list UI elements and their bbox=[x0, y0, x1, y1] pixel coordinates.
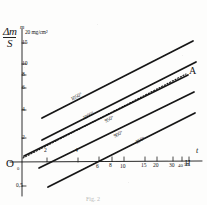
data-line-1050 bbox=[42, 41, 193, 118]
origin-label: O bbox=[6, 158, 14, 169]
x-tick-label: 15 bbox=[141, 163, 147, 169]
figure-caption: Fig. 2 bbox=[86, 196, 100, 202]
x-tick-label: 6 bbox=[96, 164, 99, 170]
y-axis-below-origin-label: 0,5 bbox=[16, 183, 23, 188]
y-tick-label: 8 bbox=[22, 72, 25, 78]
x-tick-label: 40 bbox=[178, 164, 183, 169]
y-axis-title: Δm S bbox=[3, 26, 16, 49]
x-tick-label: 20 bbox=[153, 163, 159, 169]
y-tick-label: 10 bbox=[22, 61, 28, 67]
x-tick-label: 2 bbox=[44, 148, 47, 154]
y-tick-label: 4 bbox=[22, 107, 25, 113]
x-tick-label: 10 bbox=[120, 164, 126, 170]
y-axis-title-numerator: Δm bbox=[3, 26, 16, 37]
y-axis-unit: 20 mg/cm² bbox=[25, 30, 47, 35]
origin-zero-label: 0 bbox=[17, 167, 19, 172]
x-axis-title: t bbox=[196, 147, 198, 155]
figure-container: Δm S m 20 mg/cm² 15 10 8 6 4 2 2 4 6 8 1… bbox=[0, 0, 207, 205]
x-tick-label: 4 bbox=[75, 148, 78, 154]
y-tick-label: 2 bbox=[22, 135, 25, 141]
y-axis-title-denominator: S bbox=[3, 37, 16, 49]
annotation-label-a: A bbox=[189, 66, 196, 76]
data-line-850 bbox=[48, 113, 195, 187]
y-tick-label: 6 bbox=[22, 85, 25, 91]
x-tick-label: 8 bbox=[109, 163, 112, 169]
y-tick-label: 15 bbox=[22, 40, 28, 46]
x-tick-label: 30 bbox=[169, 163, 175, 169]
y-axis-title-superscript: m bbox=[20, 24, 24, 30]
x-axis-unit: H bbox=[185, 160, 190, 168]
